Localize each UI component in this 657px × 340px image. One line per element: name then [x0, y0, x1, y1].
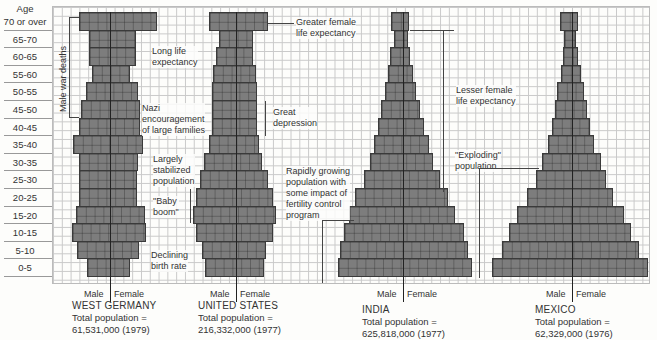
- female-label: Female: [240, 289, 270, 299]
- age-bar: [385, 82, 416, 101]
- annotation-lesser-female-life-expectancy: Lesser female life expectancy: [456, 85, 516, 107]
- age-label: 70 or over: [0, 16, 50, 27]
- age-bar: [73, 135, 143, 154]
- male-label: Male: [546, 289, 566, 299]
- age-bar: [502, 241, 639, 260]
- annotation-greater-female-life-expectancy: Greater female life expectancy: [296, 17, 356, 39]
- age-bar: [213, 65, 256, 84]
- total-population-label: Total population =: [72, 312, 156, 324]
- age-bar: [212, 118, 257, 137]
- center-axis: [572, 12, 573, 302]
- age-bar: [555, 100, 587, 119]
- age-bar: [212, 82, 257, 101]
- age-label: 55-60: [0, 69, 50, 80]
- age-bar: [370, 153, 433, 172]
- leader-line: [268, 23, 294, 24]
- age-bar: [560, 12, 578, 31]
- age-bar: [200, 170, 268, 189]
- female-label: Female: [114, 289, 144, 299]
- age-bar: [79, 188, 137, 207]
- age-bar: [391, 12, 409, 31]
- bracket-lesser-female: [410, 30, 454, 31]
- center-axis: [236, 12, 237, 302]
- age-bar: [87, 258, 130, 277]
- age-divider: [4, 100, 52, 101]
- age-bar: [394, 30, 408, 49]
- age-bar: [552, 118, 590, 137]
- age-divider: [4, 118, 52, 119]
- male-label: Male: [210, 289, 230, 299]
- age-bar: [196, 188, 273, 207]
- country-caption: UNITED STATESTotal population =216,332,0…: [198, 300, 281, 336]
- age-bar: [86, 82, 138, 101]
- total-population-value: 216,332,000 (1977): [198, 324, 281, 336]
- age-label: 65-70: [0, 34, 50, 45]
- male-label: Male: [84, 289, 104, 299]
- age-bar: [79, 170, 137, 189]
- age-bar: [209, 135, 259, 154]
- center-axis: [110, 12, 111, 302]
- age-bar: [388, 65, 413, 84]
- age-bar: [202, 241, 266, 260]
- age-bar: [77, 241, 139, 260]
- age-divider: [4, 30, 52, 31]
- country-name: UNITED STATES: [198, 300, 281, 312]
- age-bar: [364, 170, 440, 189]
- age-bar: [564, 30, 576, 49]
- age-label: 0-5: [0, 262, 50, 273]
- annotation-rapidly-growing: Rapidly growing population with some imp…: [286, 166, 350, 221]
- age-divider: [4, 241, 52, 242]
- age-bar: [338, 258, 472, 277]
- age-label: 50-55: [0, 86, 50, 97]
- age-bar: [212, 100, 257, 119]
- age-bar: [563, 47, 578, 66]
- bracket-tick: [69, 17, 79, 18]
- age-bar: [509, 223, 631, 242]
- bracket-baby-boom: [190, 189, 191, 223]
- total-population-value: 625,818,000 (1977): [362, 328, 445, 340]
- age-bar: [193, 206, 276, 225]
- annotation-stabilized: Largely stabilized population: [153, 154, 195, 187]
- total-population-label: Total population =: [535, 316, 613, 328]
- bracket-tick: [479, 168, 539, 169]
- total-population-value: 61,531,000 (1979): [72, 324, 156, 336]
- age-bar: [92, 65, 130, 84]
- annotation-male-war-deaths: Male war deaths: [58, 46, 68, 112]
- age-divider: [4, 276, 52, 277]
- total-population-value: 62,329,000 (1976): [535, 328, 613, 340]
- age-label: 35-40: [0, 139, 50, 150]
- age-bar: [205, 258, 264, 277]
- age-bar: [557, 82, 584, 101]
- age-label: 20-25: [0, 192, 50, 203]
- annotation-declining-birth-rate: Declining birth rate: [151, 250, 188, 272]
- age-bar: [378, 118, 424, 137]
- age-bar: [216, 47, 253, 66]
- bracket-great-depression: [265, 101, 266, 136]
- age-bar: [355, 188, 448, 207]
- age-divider: [4, 135, 52, 136]
- age-divider: [4, 47, 52, 48]
- country-caption: MEXICOTotal population =62,329,000 (1976…: [535, 304, 613, 340]
- age-bar: [89, 47, 136, 66]
- age-bar: [517, 206, 624, 225]
- country-caption: INDIATotal population =625,818,000 (1977…: [362, 304, 445, 340]
- annotation-nazi: Nazi encouragement of large families: [142, 103, 205, 136]
- age-label: 15-20: [0, 210, 50, 221]
- age-bar: [492, 258, 648, 277]
- age-label: 60-65: [0, 51, 50, 62]
- total-population-label: Total population =: [198, 312, 281, 324]
- age-bar: [527, 188, 613, 207]
- annotation-long-life: Long life expectancy: [152, 46, 198, 68]
- country-name: MEXICO: [535, 304, 613, 316]
- age-bar: [72, 223, 146, 242]
- age-bar: [374, 135, 429, 154]
- male-label: Male: [377, 289, 397, 299]
- age-bar: [79, 153, 138, 172]
- female-label: Female: [576, 289, 606, 299]
- age-divider: [4, 188, 52, 189]
- age-divider: [4, 65, 52, 66]
- age-bar: [204, 153, 262, 172]
- age-bar: [344, 223, 464, 242]
- bracket-tick: [322, 220, 354, 221]
- bracket-mexico-young: [479, 168, 480, 278]
